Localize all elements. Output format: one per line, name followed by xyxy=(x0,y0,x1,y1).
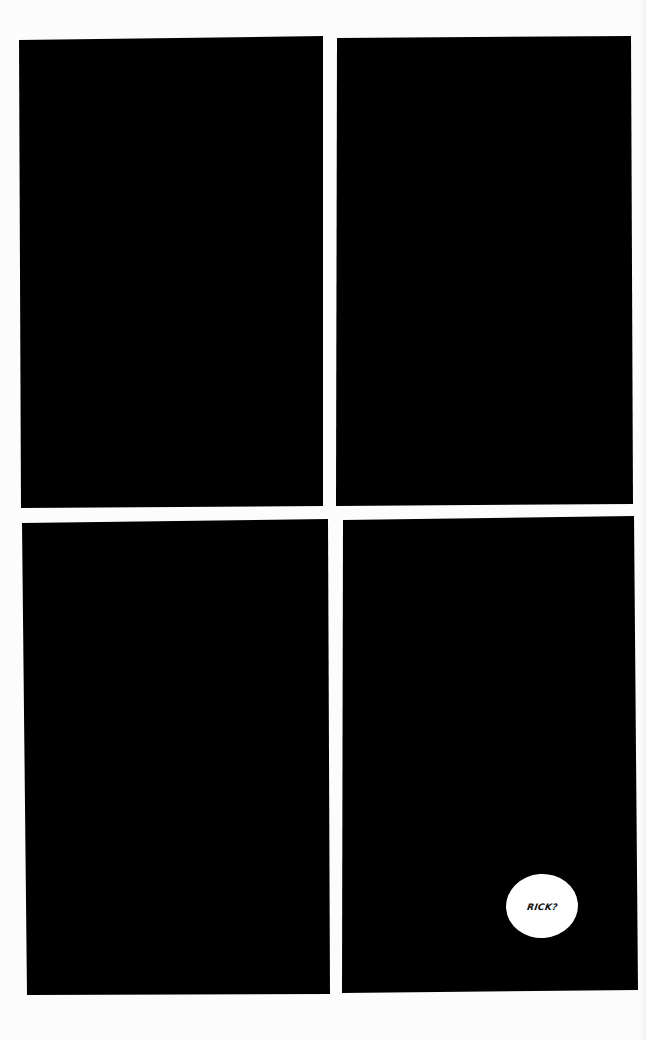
comic-page: RICK? xyxy=(0,0,646,1040)
panel-bottom-right xyxy=(342,516,639,993)
page-edge-shade xyxy=(638,0,646,1040)
panel-top-right xyxy=(336,36,634,506)
panel-top-left xyxy=(19,36,323,508)
panel-bottom-left xyxy=(22,517,330,995)
speech-bubble-text: RICK? xyxy=(526,902,558,912)
